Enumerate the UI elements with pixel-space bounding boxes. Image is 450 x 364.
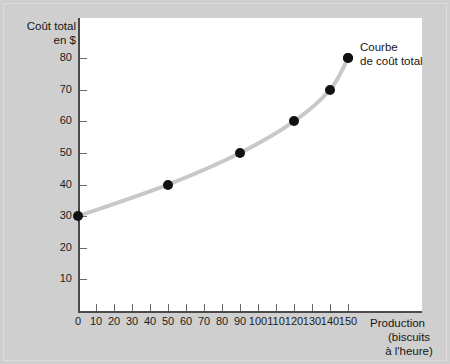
x-tick-10 [96, 304, 97, 311]
x-tick-30 [132, 304, 133, 311]
y-tick-label-30: 30 [46, 210, 72, 221]
y-tick-label-text: 50 [46, 147, 72, 158]
y-tick-10 [80, 279, 87, 280]
y-tick-50 [80, 153, 87, 154]
x-tick-20 [114, 304, 115, 311]
x-tick-140 [330, 304, 331, 311]
y-tick-label-50: 50 [46, 147, 72, 158]
y-tick-40 [80, 185, 87, 186]
x-tick-110 [276, 304, 277, 311]
x-tick-150 [348, 304, 349, 311]
x-tick-50 [168, 304, 169, 311]
data-point-140-70 [325, 85, 335, 95]
x-tick-120 [294, 304, 295, 311]
x-tick-100 [258, 304, 259, 311]
y-tick-60 [80, 121, 87, 122]
chart-figure: Coût total en $ Production (biscuits à l… [0, 0, 450, 364]
y-tick-label-text: 10 [46, 273, 72, 284]
data-point-50-40 [163, 180, 173, 190]
x-tick-90 [240, 304, 241, 311]
y-tick-label-text: 70 [46, 84, 72, 95]
y-tick-label-60: 60 [46, 115, 72, 126]
y-tick-label-text: 80 [46, 52, 72, 63]
y-tick-20 [80, 248, 87, 249]
x-tick-70 [204, 304, 205, 311]
x-tick-60 [186, 304, 187, 311]
data-point-90-50 [235, 148, 245, 158]
y-tick-70 [80, 90, 87, 91]
x-tick-130 [312, 304, 313, 311]
y-tick-label-10: 10 [46, 273, 72, 284]
x-tick-40 [150, 304, 151, 311]
y-tick-label-70: 70 [46, 84, 72, 95]
x-tick-label-150: 150 [336, 316, 360, 327]
y-tick-label-80: 80 [46, 52, 72, 63]
y-tick-label-20: 20 [46, 242, 72, 253]
y-tick-label-text: 20 [46, 242, 72, 253]
y-tick-label-text: 40 [46, 179, 72, 190]
y-tick-label-text: 60 [46, 115, 72, 126]
x-tick-80 [222, 304, 223, 311]
y-tick-80 [80, 58, 87, 59]
y-tick-label-text: 30 [46, 210, 72, 221]
y-tick-label-40: 40 [46, 179, 72, 190]
